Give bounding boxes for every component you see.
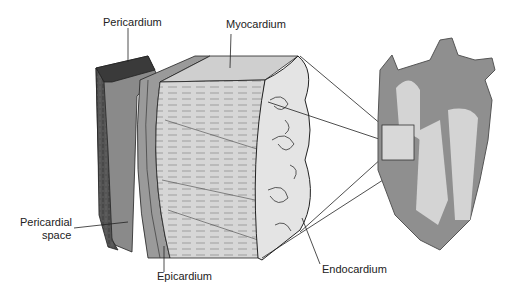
label-endocardium: Endocardium bbox=[322, 263, 387, 275]
heart-illustration bbox=[378, 38, 495, 250]
label-pericardial-space-line1: Pericardial bbox=[20, 216, 72, 228]
endocardium-layer bbox=[255, 56, 310, 260]
label-myocardium: Myocardium bbox=[226, 18, 286, 30]
label-pericardial-space-line2: space bbox=[42, 229, 71, 241]
magnified-region-box bbox=[382, 125, 414, 160]
label-epicardium: Epicardium bbox=[157, 270, 212, 282]
heart-wall-diagram bbox=[0, 0, 517, 294]
label-pericardium: Pericardium bbox=[103, 16, 162, 28]
